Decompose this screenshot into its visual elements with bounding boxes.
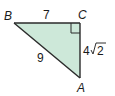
side-ba-label: 9 bbox=[37, 51, 44, 65]
vertex-c-label: C bbox=[78, 8, 87, 22]
side-ca-coefficient: 4 bbox=[83, 44, 90, 58]
side-bc-label: 7 bbox=[43, 8, 50, 22]
vertex-b-label: B bbox=[4, 9, 12, 23]
triangle-diagram: B 7 C 9 A 4 2 bbox=[0, 0, 115, 96]
side-ca-label: 4 2 bbox=[83, 43, 106, 58]
vertex-a-label: A bbox=[76, 81, 85, 95]
side-ca-radicand: 2 bbox=[97, 44, 104, 58]
